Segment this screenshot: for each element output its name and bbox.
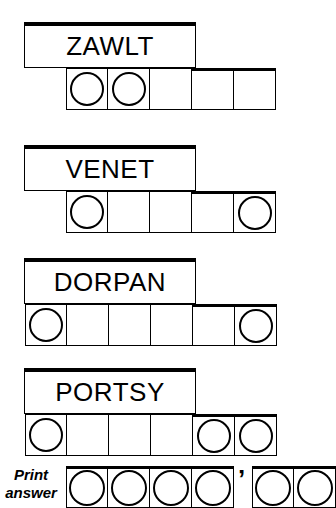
print-answer-line1: Print <box>2 466 60 484</box>
circle-icon <box>70 72 104 106</box>
scrambled-word-box: PORTSY <box>24 368 196 414</box>
scrambled-word-box: ZAWLT <box>24 22 196 68</box>
circle-icon <box>239 309 273 343</box>
letter-cell[interactable] <box>151 304 193 346</box>
scrambled-word-box: VENET <box>24 145 196 191</box>
letter-cell[interactable] <box>192 191 234 233</box>
letter-cell[interactable] <box>109 304 151 346</box>
circle-icon <box>112 72 146 106</box>
letter-cell-grid <box>25 414 277 456</box>
print-answer-line2: answer <box>2 484 60 502</box>
letter-cell[interactable] <box>67 304 109 346</box>
circle-icon <box>195 470 231 506</box>
letter-cell[interactable] <box>234 68 276 110</box>
letter-cell[interactable] <box>234 191 276 233</box>
letter-cell[interactable] <box>235 304 277 346</box>
letter-cell[interactable] <box>150 191 192 233</box>
circle-icon <box>197 419 231 453</box>
jumble-puzzle: ZAWLTVENETDORPANPORTSY Print answer ’ <box>0 0 298 501</box>
apostrophe-separator: ’ <box>238 466 245 492</box>
letter-cell[interactable] <box>66 191 108 233</box>
circle-icon <box>29 418 63 452</box>
letter-cell[interactable] <box>25 304 67 346</box>
letter-cell[interactable] <box>151 414 193 456</box>
circle-icon <box>238 196 272 230</box>
letter-cell[interactable] <box>66 68 108 110</box>
circle-icon <box>239 419 273 453</box>
letter-cell[interactable] <box>108 191 150 233</box>
letter-cell[interactable] <box>108 68 150 110</box>
answer-cell[interactable] <box>252 466 294 508</box>
circle-icon <box>29 308 63 342</box>
letter-cell[interactable] <box>150 68 192 110</box>
print-answer-label: Print answer <box>2 466 60 502</box>
circle-icon <box>255 470 291 506</box>
letter-cell[interactable] <box>235 414 277 456</box>
letter-cell-grid <box>66 191 276 233</box>
answer-cell[interactable] <box>192 466 234 508</box>
circle-icon <box>70 195 104 229</box>
answer-cell[interactable] <box>150 466 192 508</box>
letter-cell[interactable] <box>67 414 109 456</box>
circle-icon <box>297 470 333 506</box>
answer-cell[interactable] <box>66 466 108 508</box>
answer-cell-group <box>66 466 234 508</box>
letter-cell[interactable] <box>25 414 67 456</box>
letter-cell[interactable] <box>109 414 151 456</box>
letter-cell-grid <box>25 304 277 346</box>
answer-cell[interactable] <box>108 466 150 508</box>
circle-icon <box>153 470 189 506</box>
answer-cell-group <box>252 466 336 508</box>
scrambled-word-box: DORPAN <box>24 258 196 304</box>
circle-icon <box>69 470 105 506</box>
scrambled-word-text: ZAWLT <box>66 33 154 59</box>
scrambled-word-text: DORPAN <box>54 269 166 295</box>
scrambled-word-text: VENET <box>65 156 154 182</box>
scrambled-word-text: PORTSY <box>55 379 164 405</box>
letter-cell-grid <box>66 68 276 110</box>
circle-icon <box>111 470 147 506</box>
letter-cell[interactable] <box>193 414 235 456</box>
letter-cell[interactable] <box>193 304 235 346</box>
letter-cell[interactable] <box>192 68 234 110</box>
answer-cell[interactable] <box>294 466 336 508</box>
